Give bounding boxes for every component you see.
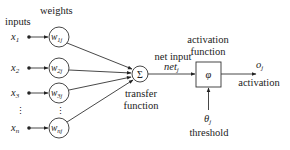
weights-ellipsis: ⋮ <box>56 106 65 116</box>
input-xn: xn <box>10 122 20 135</box>
output-activation-label: activation <box>238 77 280 88</box>
sigma-icon: Σ <box>137 69 143 80</box>
output-oj: oj <box>256 59 263 72</box>
weight-to-sum-arrow-icon <box>67 43 132 69</box>
inputs-label: inputs <box>5 16 31 27</box>
weight-to-sum-arrow-icon <box>69 77 131 90</box>
input-x1: x1 <box>10 31 19 44</box>
input-x2: x2 <box>10 62 20 75</box>
threshold-label: threshold <box>189 127 229 138</box>
weights-label: weights <box>40 5 73 16</box>
activation-function-node: activation function φ <box>187 34 229 87</box>
threshold-theta-j: θj <box>204 113 211 126</box>
input-row-1: x1 w1j <box>10 27 132 69</box>
input-x3: x3 <box>10 87 20 100</box>
transfer-label-line2: function <box>124 100 160 111</box>
net-j-symbol: netj <box>164 61 179 74</box>
inputs-ellipsis: ⋮ <box>16 106 25 116</box>
input-row-n: xn wnj <box>10 80 133 138</box>
activation-function-label-line1: activation <box>187 34 229 45</box>
input-row-3: x3 w3j <box>10 77 131 103</box>
transfer-label-line1: transfer <box>125 88 158 99</box>
weight-to-sum-arrow-icon <box>69 70 131 73</box>
neuron-model-diagram: inputs weights x1 w1j x2 w2j x3 w3j ⋮ ⋮ … <box>0 0 290 150</box>
phi-icon: φ <box>206 69 212 80</box>
activation-function-label-line2: function <box>191 46 227 57</box>
